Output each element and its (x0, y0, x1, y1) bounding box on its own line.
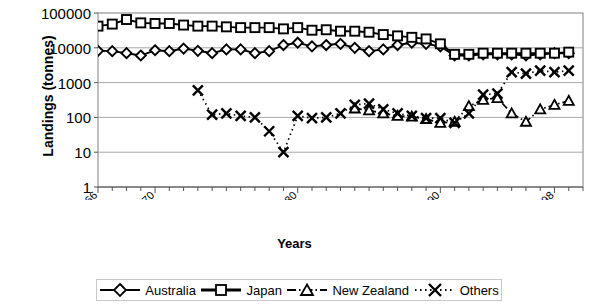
triangle-marker-icon (286, 282, 328, 298)
chart-figure: Landings (tonnes) 1000001000010001001011… (0, 0, 589, 305)
plot-area: 1000001000010001001011966197019801990199… (0, 0, 589, 200)
chart-svg: 1000001000010001001011966197019801990199… (0, 0, 589, 200)
x-axis-title: Years (0, 236, 589, 251)
x-tick-label: 1980 (273, 189, 299, 200)
x-marker-icon (414, 282, 456, 298)
y-tick-label: 1000 (58, 75, 91, 92)
legend-label-japan: Japan (244, 283, 281, 298)
legend-item-australia[interactable]: Australia (99, 282, 196, 298)
y-tick-label: 10 (74, 144, 91, 161)
diamond-marker-icon (99, 282, 141, 298)
legend-item-japan[interactable]: Japan (200, 282, 281, 298)
legend-item-new-zealand[interactable]: New Zealand (286, 282, 409, 298)
square-marker-icon (200, 282, 242, 298)
legend-label-new-zealand: New Zealand (330, 283, 409, 298)
x-tick-label: 1970 (131, 189, 157, 200)
x-tick-label: 1998 (530, 189, 556, 200)
y-tick-label: 100000 (41, 5, 91, 22)
legend-label-others: Others (458, 283, 499, 298)
chart-legend: Australia Japan New Zealand Others (96, 279, 502, 301)
legend-item-others[interactable]: Others (414, 282, 499, 298)
legend-label-australia: Australia (143, 283, 196, 298)
y-tick-label: 100 (66, 109, 91, 126)
x-tick-label: 1990 (416, 189, 442, 200)
y-tick-label: 10000 (49, 40, 91, 57)
